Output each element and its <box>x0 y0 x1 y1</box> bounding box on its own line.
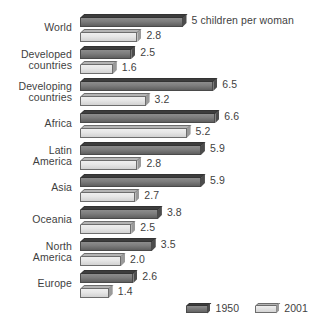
legend-swatch-2001-icon <box>255 303 279 314</box>
bar-value-label: 5 children per woman <box>192 15 294 26</box>
bar-shape <box>80 206 158 219</box>
bar-shape <box>80 270 133 283</box>
chart-row: Asia5.92.7 <box>0 174 320 202</box>
bar-value-label: 1.6 <box>122 62 137 73</box>
bars-area: 3.82.5 <box>72 206 320 234</box>
bar-shape <box>80 285 109 298</box>
category-label: Africa <box>0 118 72 130</box>
bar-shape <box>80 253 121 266</box>
bar-1950: 5 children per woman <box>80 14 320 27</box>
bar-shape <box>80 189 135 202</box>
bar-1950: 5.9 <box>80 142 320 155</box>
bar-1950: 6.5 <box>80 78 320 91</box>
category-label: Developing countries <box>0 81 72 104</box>
bars-area: 3.52.0 <box>72 238 320 266</box>
category-label: Oceania <box>0 214 72 226</box>
bar-value-label: 2.5 <box>140 47 155 58</box>
chart-row: Developing countries6.53.2 <box>0 78 320 106</box>
bar-shape <box>80 29 137 42</box>
bars-area: 6.65.2 <box>72 110 320 138</box>
category-label: Asia <box>0 182 72 194</box>
bar-value-label: 2.5 <box>140 222 155 233</box>
bar-1950: 3.5 <box>80 238 320 251</box>
category-label: North America <box>0 241 72 264</box>
bar-2001: 2.8 <box>80 157 320 170</box>
chart-row: Latin America5.92.8 <box>0 142 320 170</box>
legend-label-2001: 2001 <box>284 302 308 314</box>
bar-shape <box>80 238 152 251</box>
legend-swatch-1950-icon <box>186 303 210 314</box>
bar-value-label: 5.9 <box>210 175 225 186</box>
bar-value-label: 5.2 <box>196 126 211 137</box>
bar-2001: 3.2 <box>80 93 320 106</box>
legend-label-1950: 1950 <box>215 302 239 314</box>
chart-row: North America3.52.0 <box>0 238 320 266</box>
bar-2001: 2.8 <box>80 29 320 42</box>
bar-shape <box>80 174 201 187</box>
bar-2001: 5.2 <box>80 125 320 138</box>
bar-1950: 2.5 <box>80 46 320 59</box>
chart-row: Developed countries2.51.6 <box>0 46 320 74</box>
bar-shape <box>80 61 113 74</box>
bar-2001: 2.5 <box>80 221 320 234</box>
bar-value-label: 2.0 <box>130 254 145 265</box>
legend-entry-1950: 1950 <box>186 302 239 314</box>
bar-1950: 3.8 <box>80 206 320 219</box>
bar-value-label: 2.7 <box>144 190 159 201</box>
bar-2001: 2.0 <box>80 253 320 266</box>
bars-area: 6.53.2 <box>72 78 320 106</box>
bar-1950: 5.9 <box>80 174 320 187</box>
bar-value-label: 2.8 <box>146 158 161 169</box>
category-label: Europe <box>0 278 72 290</box>
chart-row: World5 children per woman2.8 <box>0 14 320 42</box>
bars-area: 2.51.6 <box>72 46 320 74</box>
bar-shape <box>80 46 131 59</box>
category-label: Developed countries <box>0 49 72 72</box>
bars-area: 5.92.7 <box>72 174 320 202</box>
bar-shape <box>80 125 187 138</box>
bar-value-label: 1.4 <box>118 286 133 297</box>
bar-2001: 1.6 <box>80 61 320 74</box>
bar-value-label: 2.8 <box>146 30 161 41</box>
bar-shape <box>80 78 213 91</box>
bar-shape <box>80 157 137 170</box>
bar-1950: 6.6 <box>80 110 320 123</box>
bar-value-label: 3.5 <box>161 239 176 250</box>
bars-area: 5.92.8 <box>72 142 320 170</box>
bar-1950: 2.6 <box>80 270 320 283</box>
category-label: Latin America <box>0 145 72 168</box>
bar-shape <box>80 93 146 106</box>
chart-row: Europe2.61.4 <box>0 270 320 298</box>
bar-value-label: 5.9 <box>210 143 225 154</box>
chart-row: Africa6.65.2 <box>0 110 320 138</box>
category-label: World <box>0 22 72 34</box>
bar-2001: 2.7 <box>80 189 320 202</box>
bar-value-label: 2.6 <box>142 271 157 282</box>
chart-legend: 1950 2001 <box>0 302 320 314</box>
legend-entry-2001: 2001 <box>255 302 308 314</box>
bar-2001: 1.4 <box>80 285 320 298</box>
bar-shape <box>80 221 131 234</box>
bars-area: 2.61.4 <box>72 270 320 298</box>
bar-shape <box>80 142 201 155</box>
bar-value-label: 3.8 <box>167 207 182 218</box>
bar-shape <box>80 14 183 27</box>
bar-value-label: 6.6 <box>224 111 239 122</box>
fertility-bar-chart: World5 children per woman2.8Developed co… <box>0 0 320 326</box>
chart-row: Oceania3.82.5 <box>0 206 320 234</box>
bar-value-label: 6.5 <box>222 79 237 90</box>
bar-shape <box>80 110 215 123</box>
bar-value-label: 3.2 <box>155 94 170 105</box>
bars-area: 5 children per woman2.8 <box>72 14 320 42</box>
